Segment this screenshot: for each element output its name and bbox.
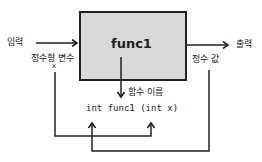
function-name: func1 (111, 37, 152, 50)
diagram-canvas (0, 0, 262, 162)
return-label: 정수 값 (192, 55, 219, 64)
input-label: 입력 (7, 38, 23, 47)
param-name-label: x (52, 63, 56, 70)
output-label: 출력 (236, 40, 252, 49)
function-signature: int func1 (int x) (86, 104, 178, 113)
func-name-label: 함수 이름 (128, 88, 163, 97)
